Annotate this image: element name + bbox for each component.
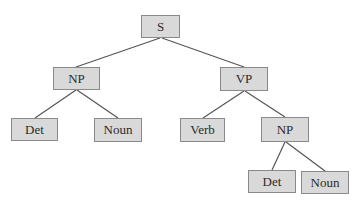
- edge-np-det-2: [272, 142, 285, 170]
- node-np-2: NP: [261, 117, 309, 142]
- node-det: Det: [11, 118, 58, 141]
- edge-np-noun: [77, 90, 118, 118]
- node-vp: VP: [220, 67, 268, 91]
- node-noun: Noun: [94, 118, 142, 142]
- node-s: S: [141, 15, 180, 38]
- edge-s-vp: [162, 38, 244, 67]
- edge-np-det: [35, 90, 76, 118]
- edge-vp-verb: [203, 91, 244, 118]
- edge-s-np: [76, 38, 160, 67]
- edge-vp-np: [245, 91, 285, 117]
- node-noun-2: Noun: [301, 171, 349, 194]
- node-np: NP: [53, 67, 100, 90]
- edge-np-noun-2: [286, 142, 325, 171]
- node-det-2: Det: [248, 170, 296, 193]
- node-verb: Verb: [180, 118, 225, 142]
